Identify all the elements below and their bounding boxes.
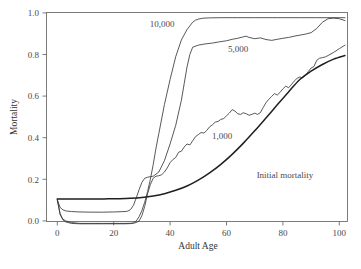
- x-axis-title: Adult Age: [178, 241, 217, 251]
- y-axis-ticks: [43, 13, 47, 221]
- y-tick-label: 0.4: [28, 133, 40, 143]
- chart-svg: 1.0 0.8 0.6 0.4 0.2 0.0 0 20 40 60 80 10…: [0, 0, 361, 269]
- x-axis-tick-labels: 0 20 40 60 80 100: [55, 228, 347, 238]
- y-axis-tick-labels: 1.0 0.8 0.6 0.4 0.2 0.0: [28, 8, 40, 226]
- y-tick-label: 0.8: [28, 50, 40, 60]
- series-label-5000: 5,000: [228, 44, 249, 54]
- y-tick-label: 1.0: [28, 8, 40, 18]
- series-label-initial-mortality: Initial mortality: [257, 170, 314, 180]
- plot-frame: [47, 13, 348, 222]
- data-curves: [57, 18, 345, 224]
- y-axis-title: Mortality: [9, 99, 19, 135]
- x-tick-label: 20: [109, 228, 119, 238]
- x-tick-label: 80: [278, 228, 288, 238]
- series-line-10000: [57, 18, 345, 224]
- y-tick-label: 0.0: [28, 216, 40, 226]
- series-line-5000: [57, 18, 345, 212]
- x-tick-label: 100: [333, 228, 347, 238]
- series-label-10000: 10,000: [150, 19, 175, 29]
- y-tick-label: 0.6: [28, 91, 40, 101]
- y-tick-label: 0.2: [28, 175, 39, 185]
- series-annotations: 10,000 5,000 1,000 Initial mortality: [150, 19, 314, 180]
- series-line-1000: [57, 45, 345, 223]
- x-tick-label: 40: [166, 228, 176, 238]
- mortality-chart-figure: 1.0 0.8 0.6 0.4 0.2 0.0 0 20 40 60 80 10…: [0, 0, 361, 269]
- x-tick-label: 0: [55, 228, 60, 238]
- x-tick-label: 60: [222, 228, 232, 238]
- series-label-1000: 1,000: [212, 131, 233, 141]
